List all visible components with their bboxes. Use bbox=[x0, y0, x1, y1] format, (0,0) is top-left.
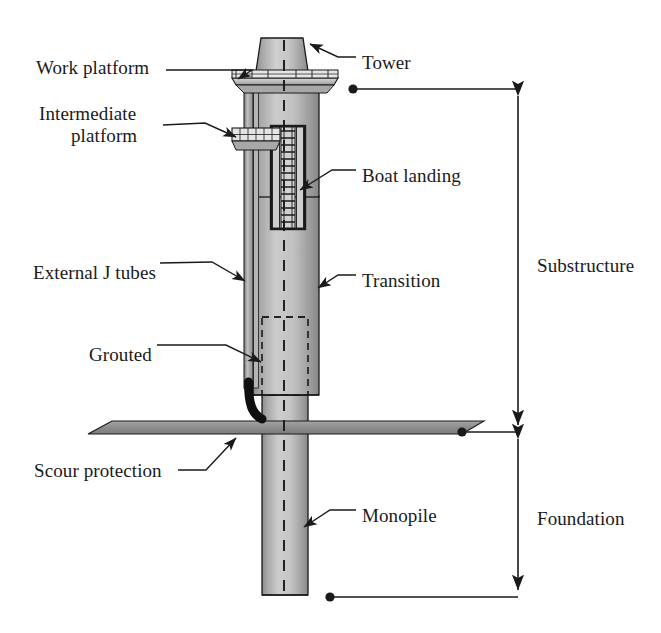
leader-scour-protection bbox=[178, 438, 236, 470]
figure-root: Work platform Intermediate platform Exte… bbox=[0, 0, 661, 633]
intermediate-platform-shape bbox=[232, 128, 280, 150]
callout-label-transition: Transition bbox=[362, 270, 440, 292]
callout-label-scour-protection: Scour protection bbox=[34, 460, 162, 482]
intermediate-platform-line2: platform bbox=[39, 125, 137, 147]
monopile-diagram bbox=[0, 0, 661, 633]
scour-protection-shape bbox=[88, 421, 484, 434]
callout-label-intermediate-platform: Intermediate platform bbox=[39, 103, 189, 147]
callout-label-boat-landing: Boat landing bbox=[362, 165, 461, 187]
leader-tower bbox=[310, 44, 356, 57]
dimension-label-substructure: Substructure bbox=[537, 255, 634, 277]
dimension-label-foundation: Foundation bbox=[537, 508, 625, 530]
callout-label-grouted: Grouted bbox=[89, 344, 152, 366]
leader-external-j-tubes bbox=[160, 262, 245, 281]
callout-label-external-j-tubes: External J tubes bbox=[33, 262, 156, 284]
callout-label-monopile: Monopile bbox=[362, 505, 437, 527]
callout-label-work-platform: Work platform bbox=[36, 57, 149, 79]
leader-transition bbox=[318, 275, 356, 288]
intermediate-platform-line1: Intermediate bbox=[39, 103, 136, 124]
leader-monopile bbox=[304, 510, 356, 527]
callout-label-tower: Tower bbox=[362, 52, 411, 74]
